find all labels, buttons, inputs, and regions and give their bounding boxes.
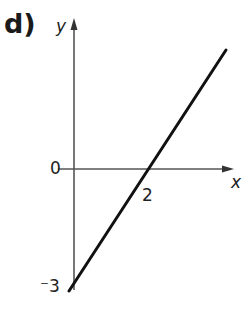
x-axis-label: x: [231, 172, 241, 192]
y-axis-arrow-icon: [71, 18, 78, 30]
x-intercept-label: 2: [142, 185, 153, 205]
y-intercept-label: ⁻3: [40, 276, 60, 296]
origin-label: 0: [50, 158, 61, 178]
y-axis-label: y: [56, 16, 66, 36]
line-graph: [0, 0, 248, 309]
graph-line: [69, 50, 226, 291]
